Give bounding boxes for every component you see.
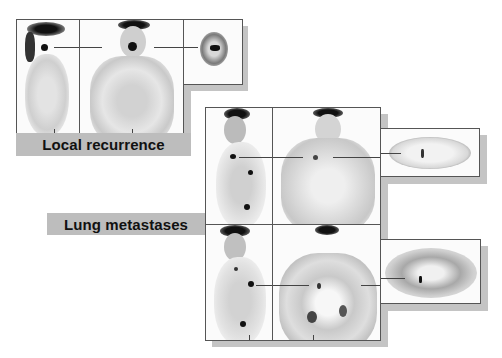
scan-sagittal-view-row1 <box>205 107 273 225</box>
crosshair-line <box>256 285 273 286</box>
lesion-hotspot <box>248 170 253 175</box>
lesion-hotspot <box>313 155 318 160</box>
scan-coronal-view-row2 <box>272 224 381 341</box>
crosshair-line <box>361 285 381 286</box>
lesion-hotspot <box>41 44 48 51</box>
crosshair-line <box>154 47 184 48</box>
lesion-hotspot <box>234 267 238 271</box>
torso-outline <box>281 138 375 225</box>
panel-shadow <box>212 340 388 347</box>
lesion-hotspot <box>244 204 250 210</box>
torso-outline <box>25 54 69 134</box>
neck <box>224 116 246 144</box>
head-uptake <box>315 225 339 235</box>
scan-axial-view <box>183 19 243 85</box>
crosshair-line <box>333 157 381 158</box>
torso-outline <box>216 142 266 225</box>
scan-axial-view-row1 <box>380 128 480 177</box>
crosshair-line <box>381 153 401 154</box>
scan-coronal-view <box>79 19 184 134</box>
label-lung-metastases: Lung metastases <box>47 213 205 235</box>
tick-mark <box>249 335 250 340</box>
torso-outline <box>90 56 174 134</box>
chest-crosssection <box>389 137 471 169</box>
lesion-hotspot <box>230 154 236 159</box>
crosshair-line <box>381 278 405 279</box>
scan-sagittal-view <box>16 19 80 134</box>
lesion-hotspot <box>128 42 137 51</box>
torso-outline <box>279 253 377 341</box>
face-outline <box>25 32 35 62</box>
scan-coronal-view-row1 <box>272 107 381 225</box>
crosshair-line <box>80 47 102 48</box>
lesion-hotspot <box>210 45 220 51</box>
tick-mark <box>313 335 314 340</box>
lesion-hotspot <box>421 149 424 158</box>
lesion-hotspot <box>317 283 321 289</box>
crosshair-line <box>54 47 80 48</box>
crosshair-line <box>239 157 273 158</box>
kidney-uptake <box>339 305 347 317</box>
label-local-recurrence: Local recurrence <box>16 133 191 156</box>
torso-outline <box>214 257 266 341</box>
crosshair-line <box>273 285 309 286</box>
lesion-hotspot <box>419 276 422 283</box>
lesion-hotspot <box>240 321 246 327</box>
crosshair-line <box>273 157 303 158</box>
chest-crosssection <box>385 248 477 298</box>
scan-axial-view-row2 <box>380 239 481 304</box>
lesion-hotspot <box>248 281 254 287</box>
kidney-uptake <box>307 311 317 323</box>
crosshair-line <box>184 47 198 48</box>
scan-sagittal-view-row2 <box>205 224 273 341</box>
